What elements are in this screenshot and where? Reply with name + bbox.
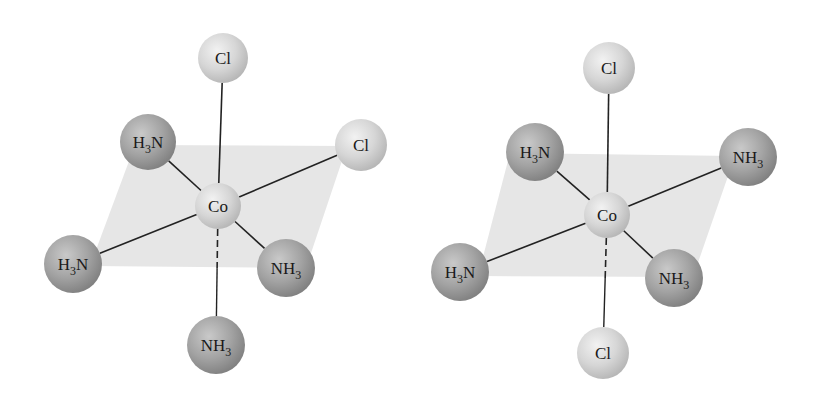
cl-top-label: Cl	[215, 49, 231, 68]
left-complex: CoClH3NClH3NNH3NH3	[44, 33, 387, 374]
octahedral-complexes-diagram: CoClH3NClH3NNH3NH3 CoClH3NNH3H3NNH3Cl	[0, 0, 815, 413]
cobalt-label: Co	[208, 197, 228, 216]
cl-right-label: Cl	[353, 136, 369, 155]
cl-bottom-label: Cl	[595, 344, 611, 363]
cl-top-label: Cl	[601, 59, 617, 78]
cobalt-label: Co	[597, 206, 617, 225]
bond	[604, 278, 605, 327]
right-complex: CoClH3NNH3H3NNH3Cl	[431, 42, 777, 379]
bond	[216, 268, 217, 316]
